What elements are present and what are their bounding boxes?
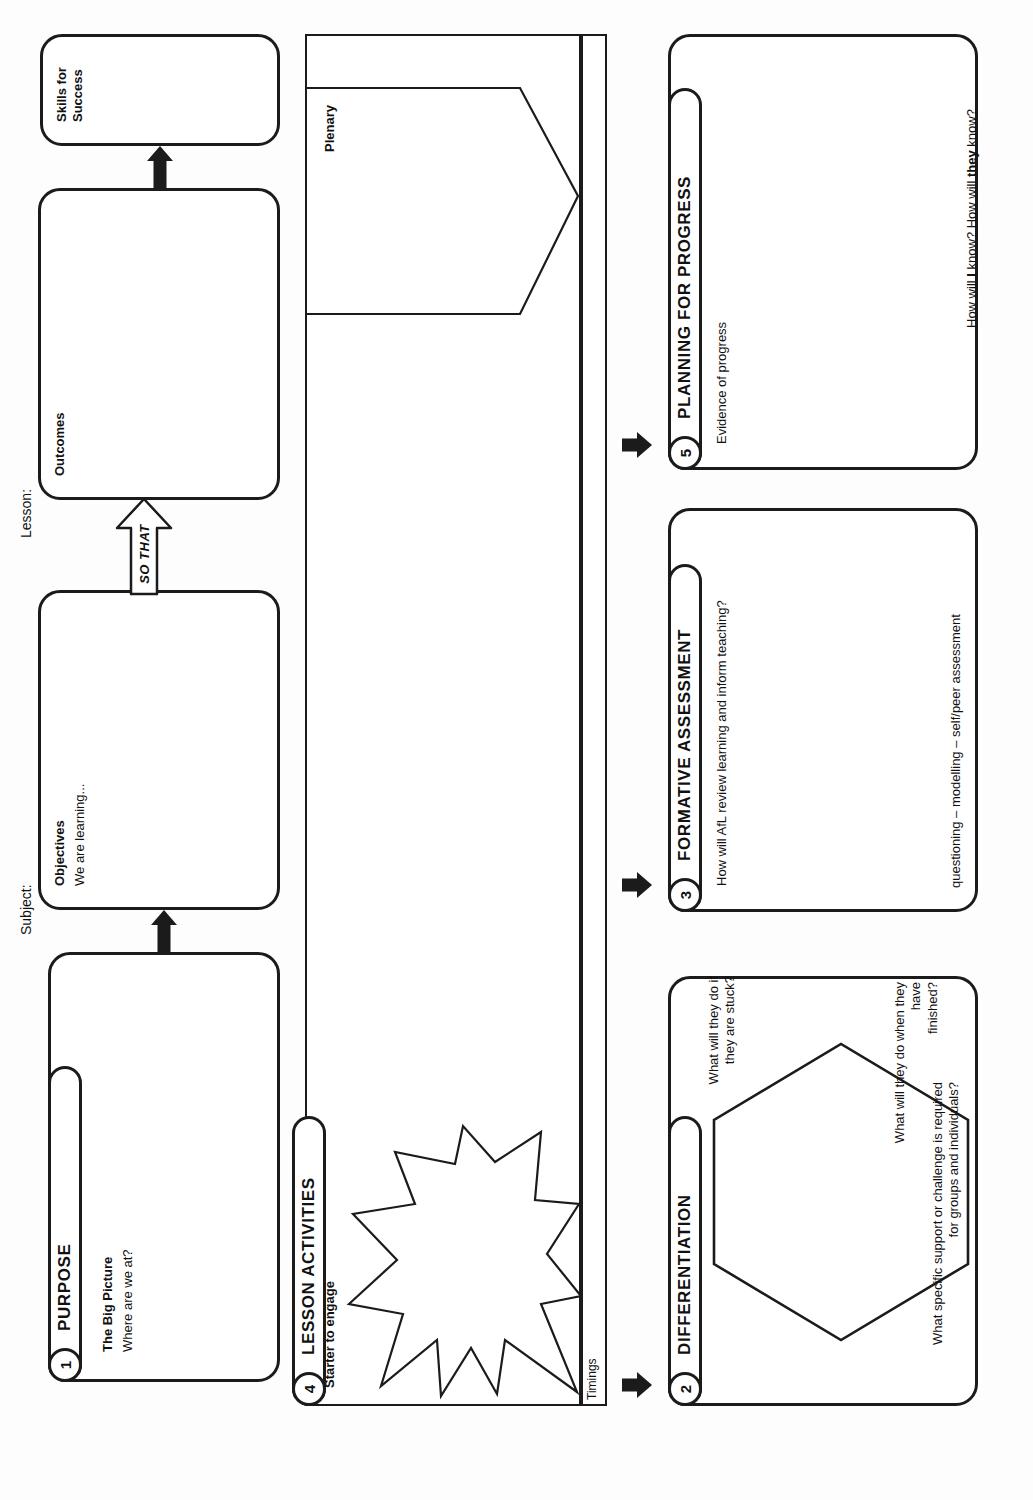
planning-for-progress-evidence-label: Evidence of progress [714, 322, 730, 444]
lesson-field-label: Lesson: [18, 489, 34, 538]
arrow-to-formative-assessment [622, 864, 652, 906]
footnote-bold-they: they [964, 150, 979, 177]
purpose-step-number: 1 [48, 1348, 82, 1382]
purpose-header: 1 PURPOSE [48, 1066, 82, 1382]
outcomes-heading: Outcomes [52, 412, 68, 476]
purpose-body-sub: Where are we at? [120, 1249, 136, 1352]
subject-field-label: Subject: [18, 884, 34, 935]
planning-for-progress-step-number: 5 [668, 436, 702, 470]
formative-assessment-footnote: questioning – modelling – self/peer asse… [948, 614, 964, 888]
objectives-heading: Objectives [52, 820, 68, 886]
outcomes-box[interactable] [38, 188, 280, 500]
differentiation-step-number: 2 [668, 1372, 702, 1406]
formative-assessment-step-number: 3 [668, 878, 702, 912]
lesson-plan-sheet: Subject: Lesson: 1 PURPOSE The Big Pictu… [0, 0, 1033, 1500]
footnote-text-2: know? How will [964, 177, 979, 273]
lesson-activities-step-number: 4 [292, 1372, 326, 1406]
formative-assessment-question: How will AfL review learning and inform … [714, 600, 730, 886]
differentiation-question-support: What specific support or challenge is re… [930, 1082, 963, 1392]
lesson-activities-header: 4 LESSON ACTIVITIES [292, 1116, 326, 1406]
skills-for-success-heading: Skills for Success [54, 30, 87, 122]
planning-for-progress-title: PLANNING FOR PROGRESS [675, 176, 695, 419]
lesson-activities-title: LESSON ACTIVITIES [299, 1177, 319, 1355]
objectives-sub: We are learning... [72, 784, 88, 886]
purpose-title: PURPOSE [55, 1244, 75, 1331]
arrow-to-differentiation [622, 1364, 652, 1406]
arrow-outcomes-to-skills [145, 146, 175, 188]
differentiation-title: DIFFERENTIATION [675, 1194, 695, 1355]
plenary-chevron-shape [306, 88, 582, 314]
footnote-text-1: How will [964, 277, 979, 328]
purpose-box[interactable] [48, 952, 280, 1382]
planning-for-progress-header: 5 PLANNING FOR PROGRESS [668, 88, 702, 470]
formative-assessment-title: FORMATIVE ASSESSMENT [675, 629, 695, 861]
differentiation-header: 2 DIFFERENTIATION [668, 1116, 702, 1406]
purpose-body-heading: The Big Picture [100, 1257, 116, 1352]
so-that-label: SO THAT [114, 498, 174, 594]
timings-label: Timings [585, 1358, 600, 1400]
page-rotation-wrapper: Subject: Lesson: 1 PURPOSE The Big Pictu… [0, 0, 1033, 1500]
footnote-text-3: know? [964, 109, 979, 150]
planning-for-progress-footnote: How will I know? How will they know? [948, 109, 981, 328]
timings-strip[interactable] [581, 34, 607, 1406]
formative-assessment-header: 3 FORMATIVE ASSESSMENT [668, 564, 702, 912]
plenary-label: Plenary [322, 105, 338, 152]
so-that-arrow: SO THAT [114, 498, 174, 594]
starter-burst-shape [345, 1125, 581, 1400]
differentiation-question-stuck: What will they do if they are stuck? [706, 976, 739, 1096]
footnote-bold-i: I [964, 273, 979, 277]
arrow-purpose-to-objectives [149, 910, 179, 952]
arrow-to-planning-for-progress [622, 424, 652, 466]
